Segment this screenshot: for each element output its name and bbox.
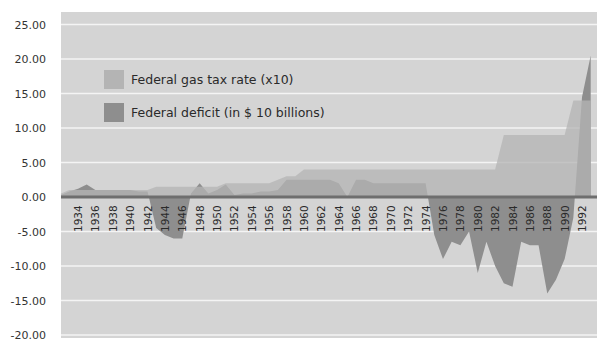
x-tick-label: 1988 — [541, 205, 553, 232]
x-tick-label: 1976 — [437, 205, 449, 232]
x-tick-label: 1956 — [263, 205, 275, 232]
x-tick-label: 1958 — [281, 205, 293, 232]
y-tick-label: 20.00 — [15, 53, 47, 66]
x-tick-label: 1964 — [333, 205, 345, 232]
x-tick-label: 1972 — [402, 205, 414, 232]
x-tick-label: 1992 — [576, 205, 588, 232]
x-tick-label: 1950 — [211, 205, 223, 232]
y-tick-label: 15.00 — [15, 88, 47, 101]
x-tick-label: 1960 — [298, 205, 310, 232]
x-tick-label: 1966 — [350, 205, 362, 232]
x-tick-label: 1962 — [315, 205, 327, 232]
x-tick-label: 1974 — [420, 205, 432, 232]
x-tick-label: 1934 — [72, 205, 84, 232]
y-tick-label: 0.00 — [22, 191, 47, 204]
y-axis-ticks: 25.0020.0015.0010.005.000.00-5.00-10.00-… — [11, 19, 46, 343]
legend-swatch-gas-tax — [104, 70, 124, 89]
x-tick-label: 1990 — [559, 205, 571, 232]
x-tick-label: 1968 — [367, 205, 379, 232]
y-tick-label: 25.00 — [15, 19, 47, 32]
x-tick-label: 1944 — [159, 205, 171, 232]
legend-label-gas-tax: Federal gas tax rate (x10) — [131, 72, 294, 87]
x-tick-label: 1942 — [142, 205, 154, 232]
x-tick-label: 1936 — [89, 205, 101, 232]
x-tick-label: 1984 — [507, 205, 519, 232]
y-tick-label: -15.00 — [11, 295, 46, 308]
y-tick-label: -10.00 — [11, 260, 46, 273]
x-tick-label: 1938 — [107, 205, 119, 232]
chart: 25.0020.0015.0010.005.000.00-5.00-10.00-… — [0, 0, 613, 355]
x-tick-label: 1940 — [124, 205, 136, 232]
x-tick-label: 1954 — [246, 205, 258, 232]
y-tick-label: -20.00 — [11, 329, 46, 342]
y-tick-label: -5.00 — [18, 226, 46, 239]
x-tick-label: 1948 — [194, 205, 206, 232]
x-tick-label: 1952 — [228, 205, 240, 232]
legend-item-deficit: Federal deficit (in $ 10 billions) — [104, 103, 325, 122]
y-tick-label: 5.00 — [22, 157, 47, 170]
x-tick-label: 1980 — [472, 205, 484, 232]
x-tick-label: 1946 — [176, 205, 188, 232]
y-tick-label: 10.00 — [15, 122, 47, 135]
x-tick-label: 1986 — [524, 205, 536, 232]
x-tick-label: 1982 — [489, 205, 501, 232]
legend-label-deficit: Federal deficit (in $ 10 billions) — [131, 105, 325, 120]
legend-swatch-deficit — [104, 103, 124, 122]
legend-item-gas-tax: Federal gas tax rate (x10) — [104, 70, 294, 89]
x-tick-label: 1978 — [454, 205, 466, 232]
x-tick-label: 1970 — [385, 205, 397, 232]
